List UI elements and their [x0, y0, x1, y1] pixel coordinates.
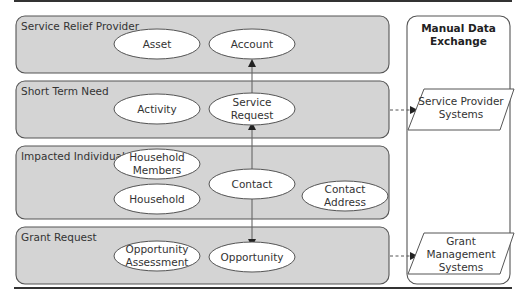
node-opportunity: Opportunity — [209, 242, 295, 272]
data-model-diagram: Service Relief Provider Short Term Need … — [0, 0, 526, 300]
lane-label: Short Term Need — [21, 85, 109, 97]
node-opportunity-assessment: Opportunity Assessment — [114, 241, 200, 271]
node-label-line1: Contact — [325, 183, 366, 195]
node-household: Household — [114, 184, 200, 214]
node-label-line2: Assessment — [126, 256, 189, 268]
lane-service-relief-provider: Service Relief Provider — [16, 16, 389, 73]
node-label-line2: Request — [231, 109, 274, 121]
node-label: Contact — [232, 178, 273, 190]
node-label-line2: Members — [133, 164, 182, 176]
system-grant-management: Grant Management Systems — [408, 233, 514, 274]
node-service-request: Service Request — [209, 93, 295, 125]
node-label: Opportunity — [220, 251, 283, 263]
node-contact-address: Contact Address — [302, 181, 388, 211]
node-contact: Contact — [209, 169, 295, 199]
node-activity: Activity — [114, 94, 200, 124]
node-account: Account — [209, 29, 295, 59]
system-label-line1: Grant — [446, 235, 476, 247]
node-label: Household — [129, 193, 185, 205]
lane-label: Grant Request — [21, 231, 97, 243]
node-label-line1: Opportunity — [125, 243, 188, 255]
system-label-line2: Systems — [439, 108, 484, 120]
system-label-line3: Systems — [439, 261, 484, 273]
system-label-line1: Service Provider — [418, 95, 504, 107]
lane-grant-request: Grant Request — [16, 227, 389, 284]
node-label-line1: Service — [233, 96, 272, 108]
lane-label: Service Relief Provider — [21, 20, 140, 32]
lane-label: Impacted Individuals — [21, 150, 130, 162]
node-label-line1: Household — [129, 151, 185, 163]
node-asset: Asset — [114, 29, 200, 59]
panel-title-line2: Exchange — [430, 35, 487, 47]
node-label: Account — [231, 38, 273, 50]
node-label: Activity — [137, 103, 176, 115]
node-label: Asset — [143, 38, 172, 50]
node-label-line2: Address — [324, 196, 366, 208]
lane-short-term-need: Short Term Need — [16, 81, 389, 138]
panel-title-line1: Manual Data — [421, 22, 496, 34]
system-label-line2: Management — [426, 248, 495, 260]
system-service-provider: Service Provider Systems — [408, 89, 514, 130]
node-household-members: Household Members — [114, 149, 200, 179]
